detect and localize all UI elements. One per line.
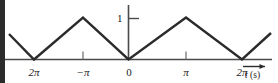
- waveform-trace: [9, 18, 271, 60]
- x-axis-label-unit: (s): [250, 70, 260, 80]
- x-axis-label: t (s): [245, 70, 260, 80]
- waveform-figure: 1 2π −π 0 π 2π t (s): [0, 0, 278, 83]
- x-tick-label-minus-2pi: 2π: [19, 66, 49, 78]
- x-tick-label-pi: π: [171, 66, 201, 78]
- y-tick-label-1: 1: [117, 12, 123, 24]
- x-tick-label-minus-pi: −π: [68, 66, 98, 78]
- x-tick-label-zero: 0: [114, 66, 144, 78]
